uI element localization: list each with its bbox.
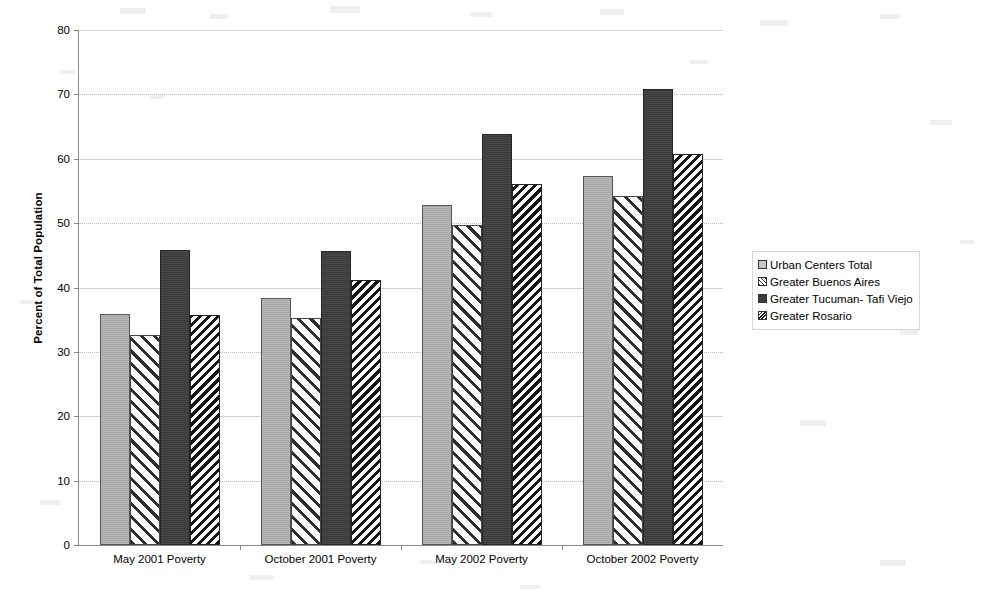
x-tick-mark [401, 545, 402, 550]
x-tick-mark [240, 545, 241, 550]
scan-artifact [40, 500, 60, 505]
scan-artifact [120, 8, 146, 14]
legend-item-label: Greater Tucuman- Tafi Viejo [770, 293, 913, 305]
scan-artifact [800, 420, 826, 426]
light-gray-solid-swatch [758, 260, 767, 269]
bar [452, 225, 482, 545]
light-diagonal-hatch-swatch [758, 277, 767, 286]
scan-artifact [600, 9, 624, 15]
x-tick-label: May 2002 Poverty [435, 553, 528, 565]
bar-group [100, 30, 220, 545]
plot-area: 01020304050607080 May 2001 PovertyOctobe… [78, 30, 723, 546]
y-tick-label: 40 [57, 282, 70, 294]
bar [291, 318, 321, 545]
scan-artifact [520, 585, 540, 589]
bar-group [261, 30, 381, 545]
y-tick-label: 80 [57, 24, 70, 36]
dark-gray-solid-swatch [758, 294, 767, 303]
y-tick-label: 20 [57, 410, 70, 422]
y-tick-label: 50 [57, 217, 70, 229]
scan-artifact [930, 120, 952, 125]
scan-artifact [760, 20, 788, 26]
legend-item: Greater Buenos Aires [758, 273, 913, 290]
bar [643, 89, 673, 545]
y-tick-mark [74, 545, 79, 546]
scan-artifact [900, 330, 918, 335]
y-tick-label: 60 [57, 153, 70, 165]
bar [261, 298, 291, 545]
bar [130, 335, 160, 546]
bars-layer [79, 30, 723, 545]
y-axis-title: Percent of Total Population [32, 168, 44, 368]
bar [422, 205, 452, 545]
bar-chart: Percent of Total Population 010203040506… [0, 0, 994, 603]
bar [160, 250, 190, 545]
scan-artifact [960, 240, 974, 244]
bar [583, 176, 613, 546]
scan-artifact [20, 300, 32, 304]
bar [482, 134, 512, 545]
bar-group [583, 30, 703, 545]
bar [512, 184, 542, 545]
legend: Urban Centers TotalGreater Buenos AiresG… [752, 251, 920, 330]
x-tick-label: October 2002 Poverty [587, 553, 699, 565]
x-tick-label: May 2001 Poverty [113, 553, 206, 565]
y-tick-label: 0 [64, 539, 70, 551]
scan-artifact [250, 575, 274, 580]
legend-item: Urban Centers Total [758, 256, 913, 273]
legend-item: Greater Tucuman- Tafi Viejo [758, 290, 913, 307]
x-tick-mark [562, 545, 563, 550]
bar [100, 314, 130, 545]
y-tick-label: 10 [57, 475, 70, 487]
bar [190, 315, 220, 545]
legend-item-label: Greater Rosario [770, 310, 852, 322]
scan-artifact [880, 560, 906, 566]
scan-artifact [470, 12, 492, 17]
scan-artifact [60, 70, 76, 74]
dense-diagonal-hatch-swatch [758, 311, 767, 320]
y-tick-label: 30 [57, 346, 70, 358]
legend-item-label: Urban Centers Total [770, 259, 872, 271]
scan-artifact [210, 14, 228, 19]
bar-group [422, 30, 542, 545]
y-tick-label: 70 [57, 88, 70, 100]
x-tick-label: October 2001 Poverty [265, 553, 377, 565]
scan-artifact [420, 560, 436, 564]
legend-item-label: Greater Buenos Aires [770, 276, 880, 288]
bar [673, 154, 703, 545]
bar [351, 280, 381, 545]
bar [321, 251, 351, 545]
legend-item: Greater Rosario [758, 307, 913, 324]
scan-artifact [330, 6, 360, 13]
scan-artifact [880, 14, 900, 19]
bar [613, 196, 643, 545]
